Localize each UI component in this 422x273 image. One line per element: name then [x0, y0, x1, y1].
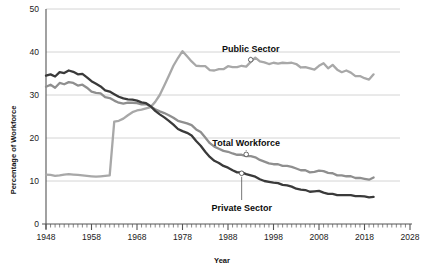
- annotation-marker-public: [248, 57, 253, 62]
- annotation-label-public: Public Sector: [222, 44, 280, 54]
- union-membership-line-chart: 50403020100 1948195819681978198819982008…: [0, 0, 422, 273]
- annotation-label-total: Total Workforce: [212, 138, 280, 148]
- x-tick-label-1998: 1998: [264, 232, 283, 242]
- y-tick-label-30: 30: [30, 90, 40, 100]
- annotation-label-private: Private Sector: [211, 203, 272, 213]
- y-tick-label-0: 0: [34, 219, 39, 229]
- x-tick-label-2018: 2018: [355, 232, 374, 242]
- y-tick-label-50: 50: [30, 4, 40, 14]
- x-tick-label-2008: 2008: [310, 232, 329, 242]
- chart-container: 50403020100 1948195819681978198819982008…: [0, 0, 422, 273]
- x-tick-label-1958: 1958: [82, 232, 101, 242]
- x-tick-label-1968: 1968: [128, 232, 147, 242]
- x-axis-title: Year: [214, 256, 230, 265]
- x-tick-label-2028: 2028: [401, 232, 420, 242]
- x-tick-label-1988: 1988: [219, 232, 238, 242]
- y-tick-label-40: 40: [30, 47, 40, 57]
- annotation-marker-total: [244, 152, 249, 157]
- y-tick-label-20: 20: [30, 133, 40, 143]
- annotation-marker-private: [239, 171, 244, 176]
- y-axis-title: Percentage of Workforce: [9, 106, 18, 195]
- x-axis-tick-labels: 194819581968197819881998200820182028: [37, 232, 420, 242]
- x-tick-label-1948: 1948: [37, 232, 56, 242]
- x-tick-label-1978: 1978: [173, 232, 192, 242]
- y-tick-label-10: 10: [30, 176, 40, 186]
